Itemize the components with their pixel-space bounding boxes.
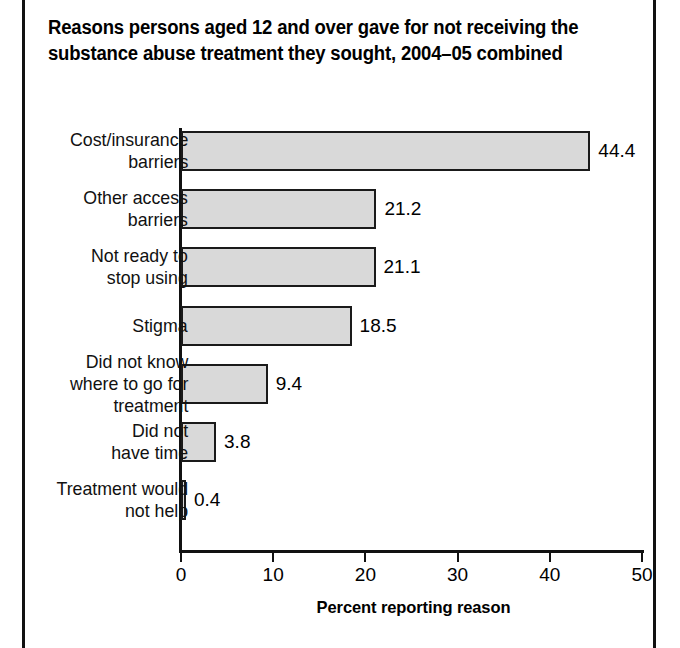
category-label: Did nothave time (111, 420, 188, 464)
x-axis-title: Percent reporting reason (181, 598, 646, 617)
x-axis-line (179, 550, 644, 553)
x-tick-label-0: 0 (176, 564, 187, 586)
category-label: Stigma (133, 315, 188, 337)
x-tick-20 (364, 553, 366, 562)
bar-row: 21.1 (181, 247, 642, 287)
bar[interactable] (181, 306, 352, 346)
x-tick-30 (457, 553, 459, 562)
bar-row: 3.8 (181, 422, 642, 462)
bar[interactable] (181, 131, 590, 171)
bar-chart: 01020304050 44.4Cost/insurancebarriers21… (0, 0, 680, 648)
x-tick-50 (641, 553, 643, 562)
x-tick-label-10: 10 (263, 564, 284, 586)
category-label-line: Not ready to (91, 245, 188, 267)
category-label-line: barriers (83, 209, 188, 231)
bar[interactable] (181, 247, 376, 287)
bar-row: 21.2 (181, 189, 642, 229)
category-label-line: stop using (91, 267, 188, 289)
category-label-line: barriers (70, 151, 188, 173)
bar-value-label: 21.1 (384, 256, 421, 278)
x-tick-label-20: 20 (355, 564, 376, 586)
category-label-line: Other access (83, 187, 188, 209)
category-label-line: where to go for (70, 373, 188, 395)
category-label-line: treatment (70, 395, 188, 417)
category-label-line: Stigma (133, 315, 188, 337)
bar-value-label: 9.4 (276, 373, 302, 395)
bar-row: 9.4 (181, 364, 642, 404)
bar[interactable] (181, 364, 268, 404)
bar-value-label: 3.8 (224, 431, 250, 453)
category-label: Treatment wouldnot help (56, 478, 188, 522)
category-label-line: not help (56, 500, 188, 522)
x-tick-label-30: 30 (447, 564, 468, 586)
bar-value-label: 21.2 (384, 198, 421, 220)
category-label: Other accessbarriers (83, 187, 188, 231)
category-label-line: Did not know (70, 351, 188, 373)
category-label: Did not knowwhere to go fortreatment (70, 351, 188, 417)
bar-row: 44.4 (181, 131, 642, 171)
x-tick-40 (549, 553, 551, 562)
x-tick-label-50: 50 (631, 564, 652, 586)
category-label-line: Cost/insurance (70, 129, 188, 151)
category-label-line: have time (111, 442, 188, 464)
x-tick-10 (272, 553, 274, 562)
x-tick-0 (180, 553, 182, 562)
x-tick-label-40: 40 (539, 564, 560, 586)
category-label-line: Treatment would (56, 478, 188, 500)
bar-row: 0.4 (181, 480, 642, 520)
bar-value-label: 18.5 (360, 315, 397, 337)
bar-value-label: 0.4 (194, 489, 220, 511)
category-label-line: Did not (111, 420, 188, 442)
category-label: Not ready tostop using (91, 245, 188, 289)
bar-row: 18.5 (181, 306, 642, 346)
bar[interactable] (181, 189, 376, 229)
bar-value-label: 44.4 (598, 140, 635, 162)
category-label: Cost/insurancebarriers (70, 129, 188, 173)
